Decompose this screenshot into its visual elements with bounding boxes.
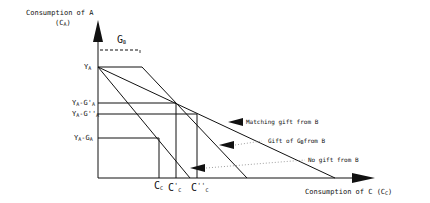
x-label-cc-double-prime: C''C [191, 182, 208, 194]
y-label-ya: YA [84, 63, 91, 72]
gb-label: GB [117, 36, 126, 46]
y-axis-symbol-close: ) [66, 19, 70, 27]
gift-gb-arrow-icon [219, 141, 234, 149]
x-label-sub: C [205, 187, 208, 193]
y-label-sub: A [88, 65, 91, 71]
guide-cc [98, 138, 159, 178]
annotation-no-gift: No gift from B [308, 156, 359, 164]
annotation-matching-gift: Matching gift from B [246, 118, 318, 126]
y-label-ya-g: YA-GA [74, 134, 93, 143]
y-axis-symbol: (CA) [55, 19, 71, 28]
x-axis-arrow-icon [352, 173, 375, 183]
y-label-ya-g-double-prime: YA-G''A [72, 110, 99, 119]
gb-label-sub: B [123, 39, 126, 45]
x-axis-title-main: Consumption of C (C [305, 188, 385, 196]
y-label-ya-g-prime: YA-G'A [72, 99, 95, 108]
matching-gift-arrow-icon [228, 118, 243, 126]
y-axis-title: Consumption of A [26, 9, 93, 17]
x-axis-title: Consumption of C (CC) [305, 188, 392, 197]
y-label-sub2: A [92, 101, 95, 107]
x-axis-title-close: ) [388, 188, 392, 196]
no-gift-dotted-leader [206, 160, 305, 168]
x-label-sub: C [160, 185, 163, 191]
y-label-sub2: A [96, 112, 99, 118]
y-label-sub2: A [90, 136, 93, 142]
x-label-cc-prime: C'C [168, 182, 181, 194]
x-label-cc: CC [154, 182, 163, 192]
budget-diagram [0, 0, 430, 203]
y-axis-arrow-icon [93, 20, 103, 42]
annotation-gift-gb: Gift of GBfrom B [268, 137, 325, 146]
y-label-rest: -G [81, 134, 89, 142]
x-label-sub: C [178, 187, 181, 193]
annotation-rest: from B [304, 137, 326, 144]
y-label-rest: -G' [79, 99, 92, 107]
annotation-main: Gift of G [268, 137, 301, 144]
y-label-rest: -G'' [79, 110, 96, 118]
